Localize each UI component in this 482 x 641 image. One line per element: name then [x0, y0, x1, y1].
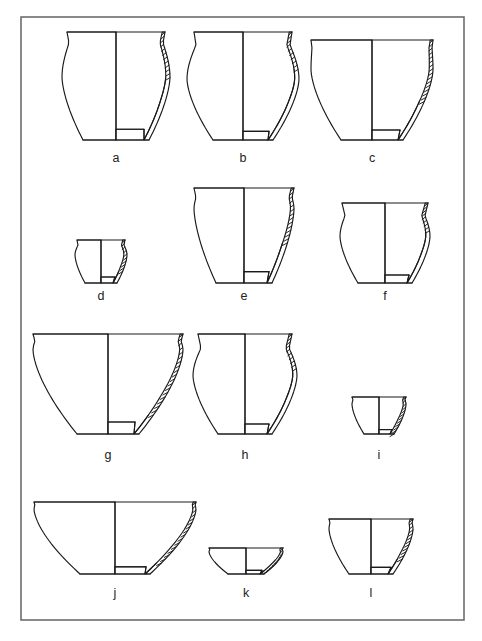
vessel-label-j: j	[113, 586, 117, 600]
figure-plate: abcdefghijkl	[0, 0, 482, 641]
vessel-label-e: e	[241, 289, 248, 303]
vessel-label-l: l	[370, 586, 373, 600]
vessel-label-f: f	[383, 289, 387, 303]
vessel-label-a: a	[113, 151, 120, 165]
vessel-label-g: g	[105, 448, 112, 462]
pottery-plate-svg: abcdefghijkl	[0, 0, 482, 641]
vessel-label-h: h	[242, 448, 249, 462]
vessel-label-k: k	[243, 586, 250, 600]
vessel-label-b: b	[240, 151, 247, 165]
vessel-label-i: i	[378, 448, 381, 462]
vessel-label-d: d	[98, 289, 105, 303]
vessel-label-c: c	[369, 151, 375, 165]
